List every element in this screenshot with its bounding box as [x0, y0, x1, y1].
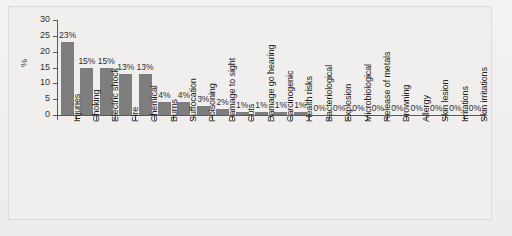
bar-chart: % 051015202530 23%15%15%13%13%4%4%3%2%1%…	[0, 0, 512, 236]
y-tick-label: 0	[26, 110, 50, 119]
y-tick-label-text: 5	[26, 94, 50, 103]
x-category-label: Skin irritations	[479, 67, 489, 122]
x-category-label: Carcinogenic	[285, 71, 295, 122]
x-category-label: Bacteriological	[324, 65, 334, 122]
y-tick-label: 10	[26, 78, 50, 87]
x-category-label: Health risks	[304, 76, 314, 122]
bar-value-label: 23%	[56, 31, 79, 40]
x-category-label: Electric shock	[110, 68, 120, 122]
x-category-label: Allergy	[421, 95, 431, 122]
y-tick-label-text: 30	[26, 15, 50, 24]
x-category-label: Explosion	[343, 84, 353, 122]
y-tick-label-text: 15	[26, 63, 50, 72]
x-category-label: Poisoning	[207, 83, 217, 122]
x-category-label: Choking	[91, 90, 101, 122]
y-tick-mark	[53, 99, 58, 100]
bar-value-label: 13%	[134, 63, 157, 72]
x-category-label: Damage go hearing	[266, 45, 276, 122]
x-category-label: Skin lesion	[440, 80, 450, 122]
y-tick-label-text: 25	[26, 31, 50, 40]
x-category-label: Burns	[169, 99, 179, 122]
x-category-label: Release of metals	[382, 52, 392, 122]
x-category-label: Chemical	[149, 85, 159, 122]
y-tick-mark	[53, 20, 58, 21]
y-tick-label: 5	[26, 94, 50, 103]
x-tick-mark	[57, 116, 58, 120]
y-tick-label-text: 0	[26, 110, 50, 119]
y-tick-label: 30	[26, 15, 50, 24]
y-tick-label-text: 10	[26, 78, 50, 87]
y-tick-mark	[53, 52, 58, 53]
x-category-label: Suffocation	[188, 78, 198, 122]
x-category-label: Injuries	[72, 94, 82, 122]
x-category-label: Microbiological	[363, 64, 373, 122]
x-category-label: Cuts	[246, 104, 256, 122]
x-category-label: Drowning	[401, 85, 411, 122]
y-tick-label: 15	[26, 63, 50, 72]
x-category-label: Irritations	[460, 86, 470, 122]
y-tick-label: 20	[26, 47, 50, 56]
y-tick-label: 25	[26, 31, 50, 40]
y-tick-label-text: 20	[26, 47, 50, 56]
y-tick-mark	[53, 83, 58, 84]
y-tick-mark	[53, 68, 58, 69]
x-category-label: Damage to sight	[227, 58, 237, 122]
x-category-label: Fire	[130, 107, 140, 122]
